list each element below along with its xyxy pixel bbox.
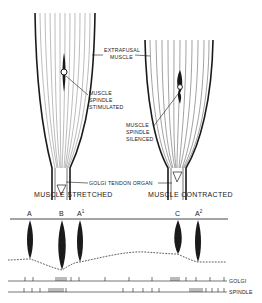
peak-label-c: C [175, 210, 180, 217]
silenced-label-2: SPINDLE [126, 129, 150, 135]
peak-a1 [77, 220, 83, 262]
peak-label-a: A [27, 210, 32, 217]
right-muscle-contracted [145, 40, 213, 200]
spindle-trace-label: SPINDLE [229, 289, 253, 295]
left-muscle-spindle [61, 53, 67, 92]
peak-a [27, 220, 33, 259]
extrafusal-label-1: EXTRAFUSAL [104, 47, 140, 53]
golgi-trace-label: GOLGI [229, 278, 246, 284]
extrafusal-label-2: MUSCLE [110, 54, 133, 60]
muscle-spindle-diagram: EXTRAFUSAL MUSCLE MUSCLE SPINDLE STIMULA… [0, 0, 262, 303]
stimulated-label-2: SPINDLE [89, 97, 113, 103]
silenced-label-3: SILENCED [126, 136, 154, 142]
golgi-tendon-organ-label: GOLGI TENDON ORGAN [89, 180, 153, 186]
leader-lines [66, 55, 178, 183]
spindle-trace [8, 288, 227, 292]
right-golgi-tendon-organ [173, 172, 182, 182]
silenced-label-1: MUSCLE [126, 122, 149, 128]
stimulated-label-1: MUSCLE [89, 90, 112, 96]
peak-c [174, 220, 182, 254]
golgi-trace [8, 277, 227, 281]
peak-label-a1: A1 [77, 209, 85, 217]
left-muscle-stretched [35, 13, 95, 200]
peak-label-a2: A2 [195, 209, 203, 217]
caption-muscle-stretched: MUSCLE STRETCHED [34, 191, 113, 198]
peak-a2 [195, 220, 201, 262]
stimulated-label-3: STIMULATED [89, 104, 124, 110]
peak-b [58, 220, 66, 270]
caption-muscle-contracted: MUSCLE CONTRACTED [148, 191, 233, 198]
peak-label-b: B [59, 210, 64, 217]
right-muscle-spindle [177, 70, 182, 104]
dashed-length-curve [8, 252, 226, 270]
tension-graph: A B A1 C A2 [8, 209, 228, 270]
